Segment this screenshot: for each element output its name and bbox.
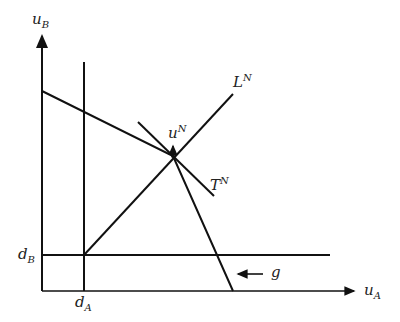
ln-label: LN: [233, 73, 252, 90]
ln-line: [84, 94, 233, 255]
tn-label: TN: [210, 176, 229, 193]
utility-frontier: [42, 91, 233, 291]
y-axis-label: uB: [32, 12, 49, 30]
g-label: g: [271, 265, 281, 280]
x-axis-label: uA: [364, 283, 381, 301]
db-label: dB: [18, 247, 35, 265]
nash-point-marker: [171, 154, 175, 158]
da-label: dA: [75, 295, 92, 313]
nash-point-label: uN: [168, 124, 186, 141]
bargaining-diagram: [0, 0, 400, 322]
